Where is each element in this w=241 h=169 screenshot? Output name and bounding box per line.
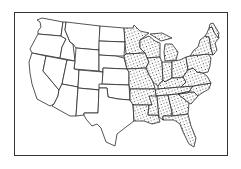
state-south-dakota [99,41,125,56]
state-kansas [102,68,129,85]
state-new-mexico [76,88,99,116]
state-florida [163,114,196,147]
stippled-range [124,23,219,147]
state-iowa [124,53,149,69]
state-washington [37,18,63,36]
state-north-dakota [99,26,125,42]
us-distribution-map [0,0,241,169]
state-wyoming [74,48,99,71]
western-states [29,18,134,146]
